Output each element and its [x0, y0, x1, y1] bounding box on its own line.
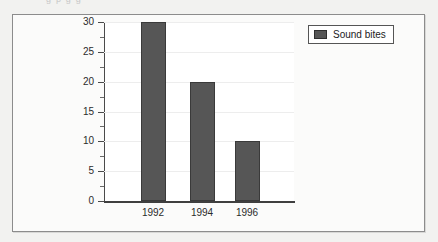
- bar-1994: [190, 82, 215, 201]
- x-tick-label: 1994: [182, 207, 222, 218]
- chart-legend: Sound bites: [308, 25, 394, 44]
- y-tick-label: 25: [61, 47, 94, 57]
- chart-frame: 051015202530 199219941996 Sound bites: [12, 14, 425, 232]
- y-tick-minor: [100, 67, 104, 68]
- gridline: [104, 22, 294, 23]
- y-tick-label: 10: [61, 136, 94, 146]
- plot-wrapper: 051015202530 199219941996: [13, 15, 424, 231]
- y-tick-minor: [100, 126, 104, 127]
- scan-top-text-artifact: g p g g: [0, 0, 438, 11]
- x-tick-label: 1996: [227, 207, 267, 218]
- y-tick-label: 20: [61, 77, 94, 87]
- y-tick-label: 5: [61, 166, 94, 176]
- scan-artifact-glyphs: g p g g: [46, 0, 82, 4]
- y-tick-minor: [100, 186, 104, 187]
- y-tick-label: 0: [61, 196, 94, 206]
- x-axis-line: [104, 201, 295, 203]
- y-tick-minor: [100, 156, 104, 157]
- bar-1996: [235, 141, 260, 201]
- y-tick-label: 15: [61, 107, 94, 117]
- y-tick-minor: [100, 37, 104, 38]
- x-tick-label: 1992: [133, 207, 173, 218]
- legend-swatch-icon: [314, 30, 327, 39]
- bar-1992: [141, 22, 166, 201]
- gridline: [104, 52, 294, 53]
- legend-label: Sound bites: [333, 29, 386, 40]
- y-tick-label: 30: [61, 17, 94, 27]
- y-tick-minor: [100, 97, 104, 98]
- y-tick-major: [98, 201, 104, 202]
